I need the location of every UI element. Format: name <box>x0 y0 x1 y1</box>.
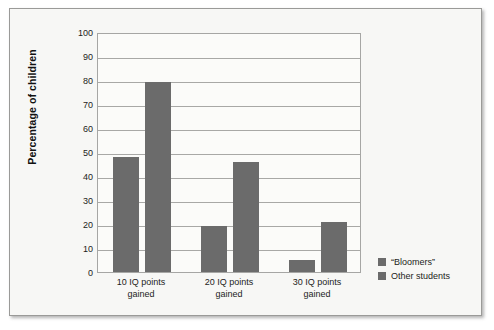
y-axis-tick-labels: 1009080706050403020100 <box>60 33 93 273</box>
legend-swatch-icon <box>378 258 386 266</box>
bar <box>289 260 315 272</box>
y-axis-tick-label: 60 <box>63 125 93 134</box>
gridline <box>98 154 360 155</box>
y-axis-tick-label: 100 <box>63 29 93 38</box>
gridline <box>98 106 360 107</box>
x-axis-tick-label: 10 IQ pointsgained <box>96 277 186 300</box>
legend-item[interactable]: “Bloomers” <box>378 255 478 269</box>
x-axis-tick-label-line: gained <box>184 289 274 301</box>
x-axis-tick-label-line: gained <box>272 289 362 301</box>
figure-frame: Percentage of children 10090807060504030… <box>9 8 482 316</box>
legend-swatch-icon <box>378 272 386 280</box>
x-axis-tick-label-line: 20 IQ points <box>184 277 274 289</box>
bar <box>201 226 227 272</box>
y-axis-tick-label: 20 <box>63 221 93 230</box>
x-axis-tick-label: 30 IQ pointsgained <box>272 277 362 300</box>
y-axis-tick-label: 0 <box>63 269 93 278</box>
y-axis-tick-label: 80 <box>63 77 93 86</box>
gridline <box>98 58 360 59</box>
plot-area <box>97 33 361 273</box>
y-axis-tick-label: 90 <box>63 53 93 62</box>
gridline <box>98 130 360 131</box>
y-axis-tick-label: 30 <box>63 197 93 206</box>
chart-legend: “Bloomers”Other students <box>378 255 478 283</box>
bar-chart: Percentage of children 10090807060504030… <box>10 9 483 317</box>
y-axis-tick-label: 70 <box>63 101 93 110</box>
bar <box>113 157 139 272</box>
x-axis-tick-label-line: gained <box>96 289 186 301</box>
y-axis-tick-label: 10 <box>63 245 93 254</box>
x-axis-tick-label-line: 10 IQ points <box>96 277 186 289</box>
legend-item-label: “Bloomers” <box>391 257 435 267</box>
x-axis-tick-label-line: 30 IQ points <box>272 277 362 289</box>
bar <box>233 162 259 272</box>
legend-item-label: Other students <box>391 271 450 281</box>
y-axis-title: Percentage of children <box>26 37 38 177</box>
bar <box>321 222 347 272</box>
x-axis-tick-labels: 10 IQ pointsgained20 IQ pointsgained30 I… <box>97 277 361 311</box>
gridline <box>98 82 360 83</box>
x-axis-tick-label: 20 IQ pointsgained <box>184 277 274 300</box>
y-axis-tick-label: 40 <box>63 173 93 182</box>
y-axis-tick-label: 50 <box>63 149 93 158</box>
legend-item[interactable]: Other students <box>378 269 478 283</box>
bar <box>145 82 171 272</box>
